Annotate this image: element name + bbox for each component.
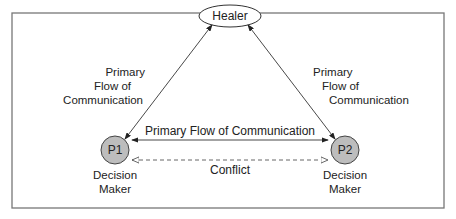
healer-label: Healer [199, 9, 261, 23]
p1-role-line1: Decision [80, 168, 150, 182]
left-edge-line3: Communication [40, 93, 145, 107]
p1-role-label: Decision Maker [80, 168, 150, 196]
p2-label: P2 [331, 143, 359, 157]
right-edge-label: Primary Flow of Communication [313, 65, 423, 107]
p1-label: P1 [101, 143, 129, 157]
conflict-label: Conflict [190, 163, 270, 177]
middle-edge-label: Primary Flow of Communication [130, 124, 330, 138]
left-edge-line2: Flow of [40, 79, 145, 93]
left-edge-line1: Primary [40, 65, 145, 79]
p2-role-line1: Decision [310, 168, 380, 182]
right-edge-line3: Communication [313, 93, 423, 107]
right-edge-line1: Primary [313, 65, 423, 79]
right-edge-line2: Flow of [313, 79, 423, 93]
diagram-canvas [0, 0, 456, 219]
left-edge-label: Primary Flow of Communication [40, 65, 145, 107]
p2-role-line2: Maker [310, 182, 380, 196]
p1-role-line2: Maker [80, 182, 150, 196]
p2-role-label: Decision Maker [310, 168, 380, 196]
